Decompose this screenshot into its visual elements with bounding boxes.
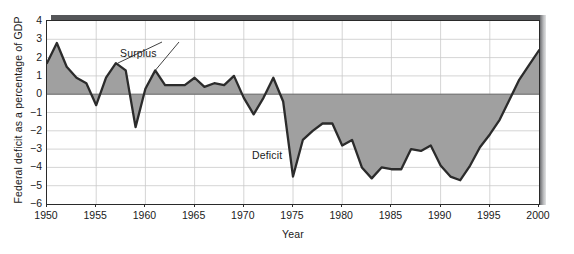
- x-tick-label: 1970: [231, 210, 254, 221]
- x-tick-label: 1995: [477, 210, 500, 221]
- annotation-deficit: Deficit: [252, 150, 282, 161]
- x-tick-label: 1965: [182, 210, 205, 221]
- x-axis-title: Year: [46, 228, 540, 240]
- x-tick-label: 1985: [379, 210, 402, 221]
- x-tick-label: 1980: [330, 210, 353, 221]
- frame-shadow-right: [540, 15, 546, 205]
- x-tick-label: 1990: [428, 210, 451, 221]
- x-tick-label: 1950: [34, 210, 57, 221]
- x-tick-label: 1955: [84, 210, 107, 221]
- x-tick-label: 1960: [133, 210, 156, 221]
- chart-figure: Federal deficit as a percentage of GDP 4…: [0, 0, 574, 254]
- x-tick-label: 1975: [280, 210, 303, 221]
- x-tick-label: 2000: [526, 210, 549, 221]
- annotation-surplus: Surplus: [120, 48, 157, 59]
